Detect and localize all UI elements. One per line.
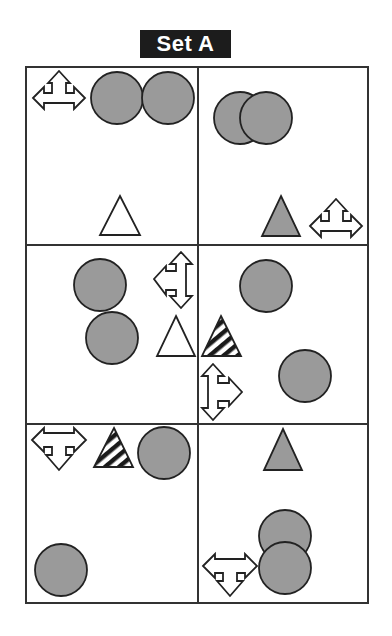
- cell-2-1: [74, 252, 195, 364]
- gray-circle: [91, 72, 143, 124]
- gray-circle: [86, 312, 138, 364]
- gray-circle: [240, 92, 292, 144]
- arrow-left-up-right-icon: [33, 71, 85, 109]
- striped-triangle: [202, 316, 241, 356]
- white-triangle: [157, 316, 195, 356]
- gray-circle: [240, 260, 292, 312]
- gray-triangle: [264, 429, 302, 470]
- cell-1-1: [33, 71, 194, 235]
- gray-circle: [35, 544, 87, 596]
- arrow-left-up-right-icon: [310, 199, 362, 237]
- arrow-up-right-down-icon: [202, 364, 242, 420]
- gray-circle: [142, 72, 194, 124]
- gray-triangle: [262, 196, 300, 236]
- cell-1-2: [214, 92, 362, 237]
- white-triangle: [100, 196, 140, 235]
- gray-circle: [279, 350, 331, 402]
- arrow-left-down-right-icon: [32, 428, 86, 470]
- cell-3-1: [32, 427, 190, 596]
- gray-circle: [259, 542, 311, 594]
- grid-lines: [26, 67, 368, 603]
- arrow-up-left-down-icon: [154, 252, 192, 308]
- puzzle-grid: [0, 0, 392, 636]
- arrow-left-down-right-icon: [203, 554, 257, 596]
- gray-circle: [74, 259, 126, 311]
- gray-circle: [138, 427, 190, 479]
- striped-triangle: [94, 428, 133, 467]
- cell-3-2: [203, 429, 311, 596]
- cell-2-2: [202, 260, 331, 420]
